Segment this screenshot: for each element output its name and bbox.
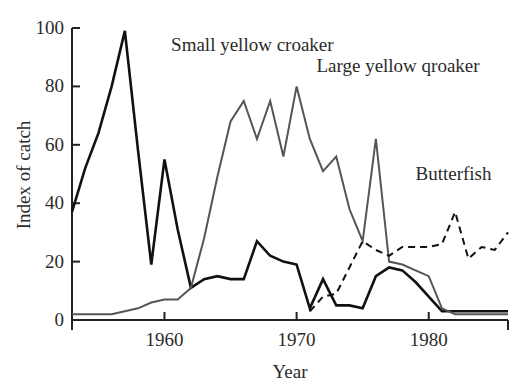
y-tick-labels: 020406080100 — [36, 17, 65, 330]
x-tick-label-1960: 1960 — [145, 329, 183, 350]
chart-page: 020406080100 Index of catch 196019701980… — [0, 0, 528, 389]
x-axis: 196019701980 Year — [72, 312, 508, 382]
y-tick-label-80: 80 — [45, 75, 64, 96]
series-label-small-yellow-croaker: Small yellow croaker — [171, 34, 334, 55]
y-axis-title: Index of catch — [13, 120, 34, 229]
y-tick-label-60: 60 — [45, 134, 64, 155]
y-tick-marks — [72, 28, 80, 320]
y-axis: 020406080100 Index of catch — [13, 17, 80, 330]
y-tick-label-40: 40 — [45, 192, 64, 213]
series-line-large-yellow-qroaker — [72, 86, 508, 314]
y-tick-label-0: 0 — [55, 309, 65, 330]
y-tick-label-100: 100 — [36, 17, 65, 38]
y-tick-label-20: 20 — [45, 251, 64, 272]
line-chart: 020406080100 Index of catch 196019701980… — [0, 0, 528, 389]
x-axis-title: Year — [272, 361, 308, 382]
x-tick-label-1980: 1980 — [410, 329, 448, 350]
series-label-large-yellow-qroaker: Large yellow qroaker — [316, 55, 480, 76]
series-label-butterfish: Butterfish — [416, 163, 492, 184]
x-tick-label-1970: 1970 — [278, 329, 316, 350]
x-tick-labels: 196019701980 — [145, 329, 447, 350]
series-line-butterfish — [310, 212, 508, 311]
x-tick-marks — [164, 312, 428, 320]
